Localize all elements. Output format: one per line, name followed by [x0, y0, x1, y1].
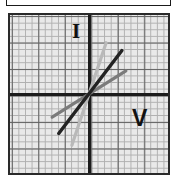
plot-lines	[10, 15, 168, 173]
series-line-medium	[59, 51, 122, 134]
voltage-axis-label: V	[132, 107, 147, 130]
iv-characteristic-graph: I V	[8, 13, 170, 175]
current-axis-label: I	[72, 21, 80, 42]
cropped-top-frame	[6, 0, 171, 6]
